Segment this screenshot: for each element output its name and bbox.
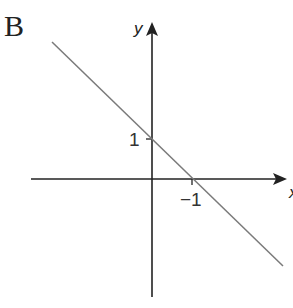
plotted-line <box>52 42 283 266</box>
x-tick-label: −1 <box>180 189 202 210</box>
graph-figure: B x y 1 −1 <box>0 0 293 308</box>
x-axis-label: x <box>288 183 293 202</box>
y-axis-label: y <box>133 19 144 38</box>
y-tick-label: 1 <box>129 129 140 150</box>
panel-label: B <box>4 9 24 42</box>
